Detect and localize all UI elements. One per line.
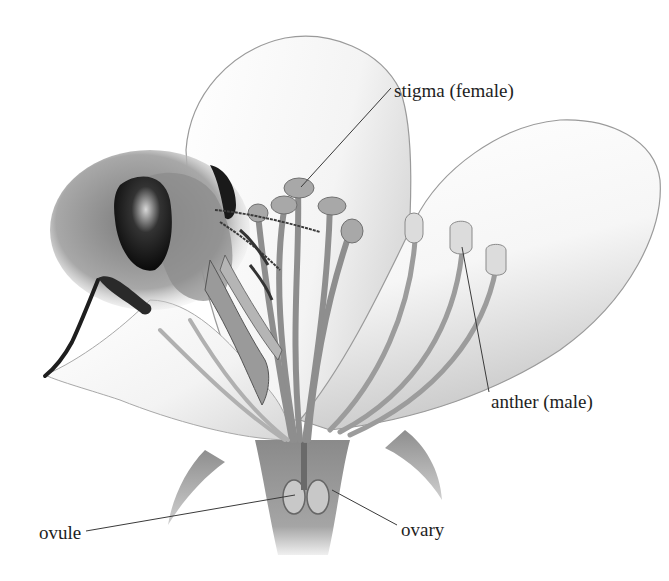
label-ovule: ovule xyxy=(39,523,81,542)
label-ovary: ovary xyxy=(401,520,444,539)
illustration xyxy=(0,0,669,581)
label-anther: anther (male) xyxy=(491,392,593,411)
leader-ovary xyxy=(332,490,397,525)
leader-ovule xyxy=(86,495,295,531)
label-stigma: stigma (female) xyxy=(394,81,514,100)
style xyxy=(301,440,307,490)
ovule-right xyxy=(307,480,329,514)
flower-pollination-diagram: stigma (female) anther (male) ovule ovar… xyxy=(0,0,669,581)
ovary-body xyxy=(255,440,350,555)
